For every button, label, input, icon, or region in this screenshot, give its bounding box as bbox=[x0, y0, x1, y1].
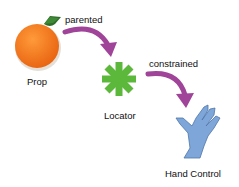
node-label-hand-control: Hand Control bbox=[165, 168, 221, 179]
constrained-arrow bbox=[148, 73, 194, 108]
orange-icon bbox=[15, 16, 61, 71]
node-label-prop: Prop bbox=[27, 76, 47, 87]
edge-label-parented: parented bbox=[65, 14, 103, 25]
locator-star-icon bbox=[102, 62, 136, 96]
edge-label-constrained: constrained bbox=[149, 58, 198, 69]
diagram-canvas bbox=[0, 0, 239, 187]
hand-icon bbox=[176, 105, 220, 158]
parented-arrow bbox=[65, 29, 117, 57]
node-label-locator: Locator bbox=[104, 110, 136, 121]
